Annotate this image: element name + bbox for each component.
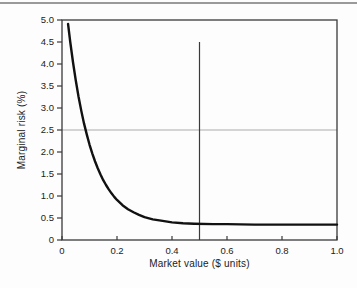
y-tick-label: 1.5 <box>41 168 54 179</box>
y-tick-label: 3.0 <box>41 102 54 113</box>
y-tick-label: 4.5 <box>41 36 54 47</box>
x-tick-label: 0 <box>59 245 64 256</box>
marginal-risk-curve <box>68 24 337 225</box>
chart-canvas: 5.04.54.03.53.02.52.01.51.00.5000.20.40.… <box>0 0 357 288</box>
x-tick-label: 1.0 <box>330 245 343 256</box>
x-tick-label: 0.8 <box>275 245 288 256</box>
x-tick-label: 0.6 <box>220 245 233 256</box>
y-tick-label: 2.0 <box>41 146 54 157</box>
x-tick-label: 0.2 <box>110 245 123 256</box>
y-tick-label: 3.5 <box>41 80 54 91</box>
y-axis-title: Marginal risk (%) <box>16 91 27 169</box>
y-tick-label: 0 <box>49 234 54 245</box>
y-tick-label: 5.0 <box>41 14 54 25</box>
y-tick-label: 4.0 <box>41 58 54 69</box>
figure: 5.04.54.03.53.02.52.01.51.00.5000.20.40.… <box>0 0 357 288</box>
x-tick-label: 0.4 <box>165 245 178 256</box>
x-axis-title: Market value ($ units) <box>62 258 337 269</box>
y-tick-label: 2.5 <box>41 124 54 135</box>
y-tick-label: 0.5 <box>41 212 54 223</box>
y-tick-label: 1.0 <box>41 190 54 201</box>
